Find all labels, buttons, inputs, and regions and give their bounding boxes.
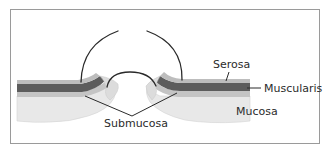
right-serosa: [160, 72, 250, 83]
label-submucosa: Submucosa: [104, 118, 168, 129]
left-tissue-segment: [17, 73, 118, 122]
label-serosa: Serosa: [213, 59, 250, 70]
label-mucosa: Mucosa: [236, 106, 278, 117]
label-muscularis: Muscularis: [264, 83, 322, 94]
right-tissue-segment: [146, 72, 250, 123]
outer-suture-left-arc: [81, 31, 118, 82]
